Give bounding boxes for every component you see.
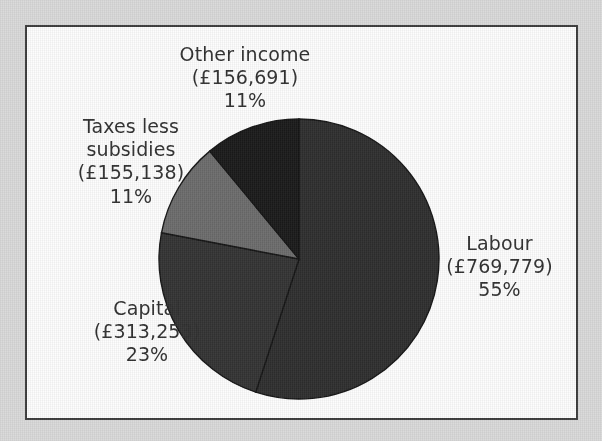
pie-label-other-income-name: Other income	[145, 43, 345, 66]
pie-chart-plot-area: Other income (£156,691) 11% Taxes less s…	[27, 27, 576, 418]
chart-frame: Other income (£156,691) 11% Taxes less s…	[25, 25, 578, 420]
pie-label-taxes-percent: 11%	[41, 185, 221, 208]
pie-label-labour: Labour (£769,779) 55%	[417, 232, 582, 302]
pie-label-taxes-name-line2: subsidies	[41, 138, 221, 161]
pie-label-taxes-value: (£155,138)	[41, 161, 221, 184]
pie-label-taxes-name-line1: Taxes less	[41, 115, 221, 138]
pie-label-labour-name: Labour	[417, 232, 582, 255]
pie-label-capital-percent: 23%	[57, 343, 237, 366]
pie-label-capital-value: (£313,253)	[57, 320, 237, 343]
pie-label-other-income-value: (£156,691)	[145, 66, 345, 89]
pie-label-taxes-less-subsidies: Taxes less subsidies (£155,138) 11%	[41, 115, 221, 208]
pie-label-capital: Capital (£313,253) 23%	[57, 297, 237, 367]
pie-label-other-income: Other income (£156,691) 11%	[145, 43, 345, 113]
pie-label-labour-percent: 55%	[417, 278, 582, 301]
pie-label-labour-value: (£769,779)	[417, 255, 582, 278]
pie-label-other-income-percent: 11%	[145, 89, 345, 112]
chart-screenshot: Other income (£156,691) 11% Taxes less s…	[0, 0, 602, 441]
pie-label-capital-name: Capital	[57, 297, 237, 320]
